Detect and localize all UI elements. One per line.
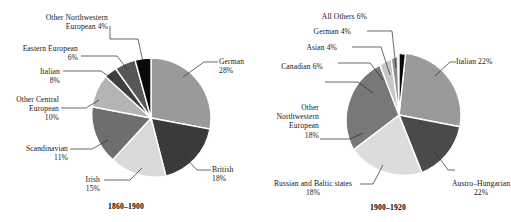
label-eastern-european: Eastern European 6% xyxy=(2,44,78,62)
pie-chart-1900-1920: All Others 6% German 4% Asian 4% Canadia… xyxy=(255,0,511,222)
label-german: German 28% xyxy=(219,57,259,75)
label-german: German 4% xyxy=(267,27,351,36)
caption-1900-1920: 1900–1920 xyxy=(370,203,406,212)
caption-1860-1900: 1860–1900 xyxy=(108,202,144,211)
figure-root: Other Northwestern European 4% Eastern E… xyxy=(0,0,511,222)
label-italian: Italian 22% xyxy=(456,57,511,66)
label-british: British 18% xyxy=(212,165,256,183)
label-russian-and-baltic-states: Russian and Baltic states 18% xyxy=(267,179,359,197)
label-other-northwestern-european: Other Northwestern European 18% xyxy=(257,103,319,140)
label-all-others: All Others 6% xyxy=(275,12,367,21)
pie-slice-german[interactable] xyxy=(151,58,211,129)
label-scandinavian: Scandinavian 11% xyxy=(2,144,68,162)
pie-slices-right xyxy=(346,53,461,175)
label-austro-hungarian: Austro–Hungarian 22% xyxy=(451,179,511,197)
label-italian: Italian 8% xyxy=(2,67,60,85)
pie-slice-italian[interactable] xyxy=(399,53,461,127)
pie-chart-1860-1900: Other Northwestern European 4% Eastern E… xyxy=(0,0,256,222)
label-other-central-european: Other Central European 10% xyxy=(2,95,59,123)
pie-slices-left xyxy=(92,58,211,177)
label-other-northwestern-european: Other Northwestern European 4% xyxy=(2,13,108,31)
label-irish: Irish 15% xyxy=(50,175,100,193)
label-asian: Asian 4% xyxy=(265,43,337,52)
leader-other-northwestern-european xyxy=(110,26,143,62)
label-canadian: Canadian 6% xyxy=(257,62,323,71)
